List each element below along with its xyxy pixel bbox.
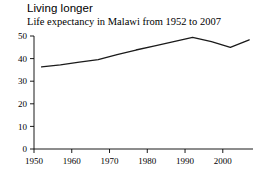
x-axis-tick-labels: 195019601970198019902000 [25,156,232,166]
y-tick-label: 10 [18,122,28,132]
y-tick-label: 20 [18,99,28,109]
y-axis: 01020304050 [18,31,34,154]
plot-area: 01020304050 195019601970198019902000 [0,0,264,185]
x-tick-label: 1990 [176,156,195,166]
x-tick-label: 1970 [101,156,120,166]
y-tick-label: 40 [18,54,28,64]
x-tick-label: 2000 [214,156,233,166]
x-tick-label: 1950 [25,156,44,166]
x-tick-label: 1980 [138,156,157,166]
y-tick-label: 0 [23,144,28,154]
x-axis-ticks [34,149,223,153]
chart-figure: Living longer Life expectancy in Malawi … [0,0,264,185]
y-axis-tick-labels: 01020304050 [18,31,28,154]
y-axis-ticks [30,36,34,149]
x-axis: 195019601970198019902000 [25,149,253,166]
y-tick-label: 50 [18,31,28,41]
series-line [42,37,250,67]
data-series-group [42,37,250,67]
y-tick-label: 30 [18,76,28,86]
x-tick-label: 1960 [63,156,82,166]
